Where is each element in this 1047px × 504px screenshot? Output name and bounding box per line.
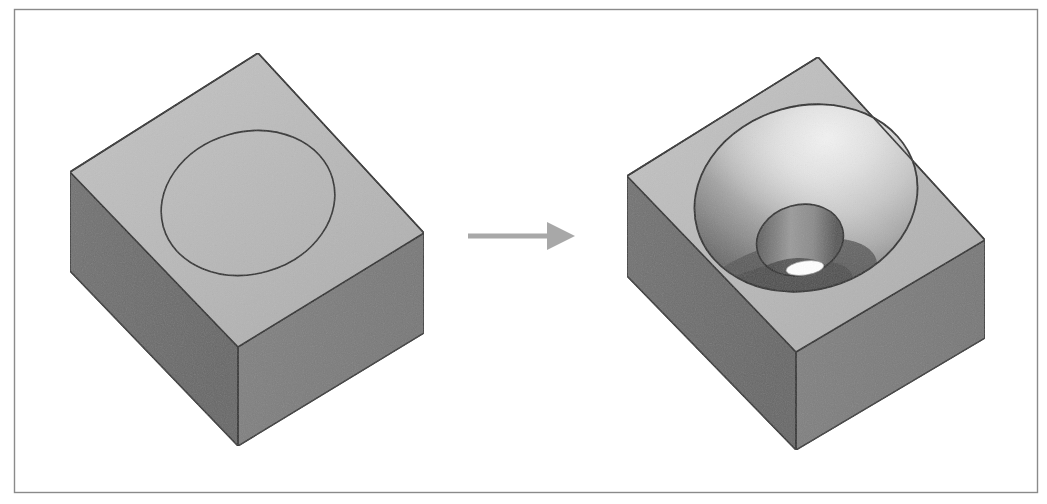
technical-illustration [0, 0, 1047, 504]
transform-arrow-shaft [468, 234, 552, 239]
figure-canvas: Isometric CAD illustration: a rectangula… [0, 0, 1047, 504]
